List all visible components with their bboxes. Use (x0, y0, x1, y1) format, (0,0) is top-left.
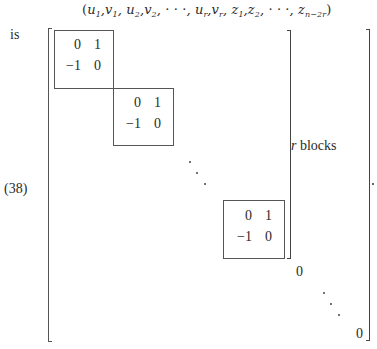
blocks-text: blocks (296, 138, 336, 153)
sub-zn: n−2r (305, 10, 326, 19)
sub-v2: 2 (152, 10, 157, 19)
sub-u1: 1 (96, 10, 101, 19)
block-r-a12: 1 (250, 208, 272, 224)
sub-ur: r (203, 10, 207, 19)
zero-entry: 0 (296, 264, 303, 280)
block-1-a21: −1 (59, 58, 81, 74)
sub-z2: 2 (255, 10, 260, 19)
diag-dot-4 (323, 292, 325, 294)
sub-v1: 1 (113, 10, 118, 19)
block-r-a22: 0 (250, 229, 272, 245)
diag-dot-1 (189, 161, 191, 163)
block-1-a11: 0 (59, 37, 81, 53)
var-u1: u (87, 2, 95, 17)
close-paren: ) (326, 2, 331, 17)
prefix-text: is (10, 27, 19, 43)
var-z2: z (248, 2, 255, 17)
var-u2: u (126, 2, 134, 17)
block-2-a22: 0 (139, 116, 161, 132)
matrix-right-bracket (366, 30, 370, 340)
diag-dot-2 (196, 172, 198, 174)
sub-u2: 2 (135, 10, 140, 19)
r-blocks-label: r blocks (291, 138, 337, 154)
sub-z1: 1 (238, 10, 243, 19)
var-v2: v (144, 2, 151, 17)
block-2-a12: 1 (139, 95, 161, 111)
block-1-a22: 0 (79, 58, 101, 74)
trailing-period (372, 183, 374, 185)
last-diagonal-zero: 0 (356, 326, 363, 342)
block-r-a21: −1 (230, 229, 252, 245)
block-r-a11: 0 (230, 208, 252, 224)
ellipsis-2: · · · (268, 2, 289, 17)
diag-dot-3 (204, 183, 206, 185)
ellipsis-1: · · · (165, 2, 186, 17)
block-1-a12: 1 (79, 37, 101, 53)
diag-dot-6 (338, 314, 340, 316)
block-2: 0 1 −1 0 (113, 88, 174, 146)
basis-tuple: (u1,v1, u2,v2, · · ·, ur,vr, z1,z2, · · … (82, 2, 331, 17)
block-2-a11: 0 (119, 95, 141, 111)
diag-dot-5 (330, 303, 332, 305)
block-1: 0 1 −1 0 (54, 30, 114, 89)
matrix-left-bracket (48, 29, 52, 341)
block-r: 0 1 −1 0 (223, 200, 285, 259)
equation-number: (38) (4, 181, 27, 197)
block-2-a21: −1 (119, 116, 141, 132)
sub-vr: r (219, 10, 223, 19)
var-v1: v (105, 2, 112, 17)
var-vr: v (212, 2, 219, 17)
var-zn: z (298, 2, 305, 17)
